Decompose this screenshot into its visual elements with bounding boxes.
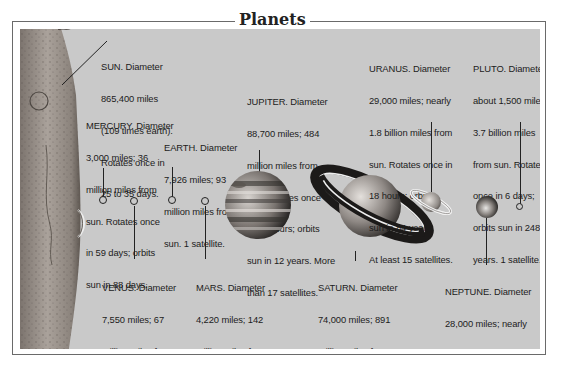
mars-pointer-line xyxy=(205,206,206,259)
neptune-label: NEPTUNE. Diameter 28,000 miles; nearly 2… xyxy=(445,266,531,349)
pluto-pointer-line xyxy=(520,122,521,204)
earth-marker-icon xyxy=(168,196,176,204)
pluto-marker-icon xyxy=(516,203,523,210)
jupiter-planet-icon xyxy=(223,169,293,241)
venus-pointer-line xyxy=(134,206,135,259)
venus-label: VENUS. Diameter 7,550 miles; 67 million … xyxy=(102,262,176,349)
pluto-label: PLUTO. Diameter about 1,500 miles; 3.7 b… xyxy=(473,43,540,287)
earth-pointer-line xyxy=(172,167,173,197)
uranus-pointer-line xyxy=(431,122,432,192)
venus-marker-icon xyxy=(130,197,138,205)
neptune-planet-icon xyxy=(475,195,499,219)
planets-panel: SUN. Diameter 865,400 miles (109 times e… xyxy=(20,29,540,349)
diagram-title: Planets xyxy=(235,9,310,31)
mercury-marker-icon xyxy=(99,196,107,204)
neptune-pointer-line xyxy=(486,218,487,265)
uranus-planet-icon xyxy=(407,184,455,220)
mercury-pointer-line xyxy=(103,168,104,197)
saturn-pointer-line xyxy=(355,251,356,261)
uranus-label: URANUS. Diameter 29,000 miles; nearly 1.… xyxy=(369,43,453,287)
mars-marker-icon xyxy=(201,197,209,205)
